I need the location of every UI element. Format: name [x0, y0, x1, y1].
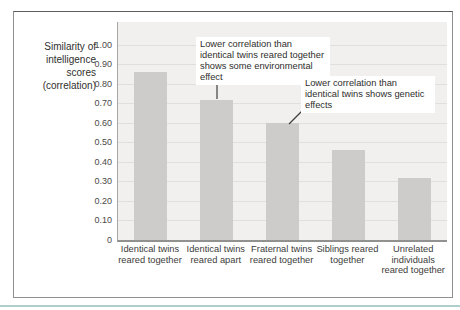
y-tick-label: 0.90: [84, 59, 112, 69]
y-tick-label: 0.80: [84, 79, 112, 89]
x-category-label: Unrelated individuals reared together: [380, 244, 446, 276]
textbook-figure: Similarity of intelligence scores (corre…: [0, 0, 460, 310]
bar-3: [266, 123, 299, 240]
x-category-label: Identical twins reared apart: [183, 244, 249, 265]
y-tick-label: 0.20: [84, 196, 112, 206]
bar-5: [398, 178, 431, 240]
x-category-label: Identical twins reared together: [117, 244, 183, 265]
y-tick-label: 0.10: [84, 215, 112, 225]
bar-1: [134, 72, 167, 240]
bar-2: [200, 100, 233, 240]
y-tick-label: 0.50: [84, 137, 112, 147]
annotation-genetic-effects: Lower correlation than identical twins s…: [301, 76, 435, 113]
y-tick-label: 0.70: [84, 98, 112, 108]
y-tick-label: 0.60: [84, 118, 112, 128]
y-tick-label: 0.40: [84, 157, 112, 167]
y-tick-label: 0.30: [84, 176, 112, 186]
x-category-label: Siblings reared together: [314, 244, 380, 265]
x-category-label: Fraternal twins reared together: [249, 244, 315, 265]
y-tick-label: 0: [84, 235, 112, 245]
bar-4: [332, 150, 365, 240]
page-accent-rule: [0, 305, 460, 307]
y-tick-label: 1.00: [84, 40, 112, 50]
